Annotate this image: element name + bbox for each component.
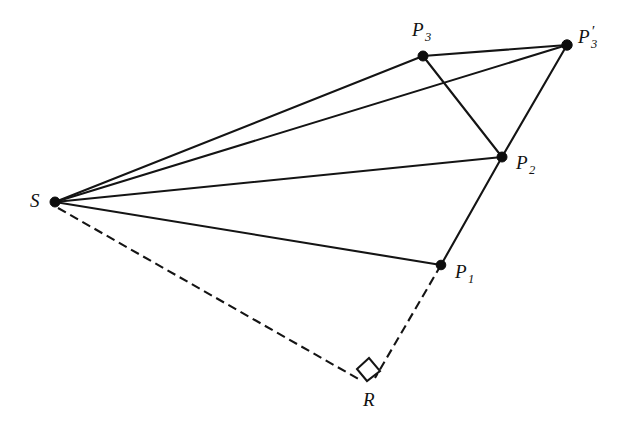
point-label-P2: P2 (516, 153, 528, 172)
edge-S-P1 (55, 202, 441, 265)
vertex-dot-P1 (436, 260, 446, 270)
edge-S-P3 (55, 56, 423, 202)
edge-P3-P2 (423, 56, 502, 157)
geometry-diagram: S P1 P2 P3 P′3 R (0, 0, 619, 429)
point-label-P2-base: P (516, 152, 528, 173)
vertex-dot-P3 (418, 51, 428, 61)
point-label-P1-subscript: 1 (468, 273, 474, 286)
right-angle-marker (357, 358, 380, 381)
diagram-canvas (0, 0, 619, 429)
edge-S-R (58, 208, 362, 381)
point-label-P3-subscript: 3 (425, 31, 431, 44)
point-label-P2-subscript: 2 (529, 164, 535, 177)
edge-P1-R (375, 265, 441, 378)
point-label-P1-base: P (455, 261, 467, 282)
point-label-P3prime-subscript: 3 (591, 38, 597, 51)
point-label-S: S (30, 191, 40, 210)
edge-group (55, 45, 567, 381)
edge-P3-P3prime (423, 45, 567, 56)
point-label-P3prime-base: P (578, 26, 590, 47)
vertex-dot-P3prime (562, 40, 572, 50)
edge-P2-P1 (441, 157, 502, 265)
point-label-P3: P3 (412, 20, 424, 39)
point-label-R: R (363, 390, 375, 409)
point-label-P1: P1 (455, 262, 467, 281)
point-label-P3prime: P′3 (578, 27, 590, 46)
vertex-group (50, 40, 572, 270)
point-label-P3-base: P (412, 19, 424, 40)
vertex-dot-S (50, 197, 60, 207)
vertex-dot-P2 (497, 152, 507, 162)
edge-S-P2 (55, 157, 502, 202)
